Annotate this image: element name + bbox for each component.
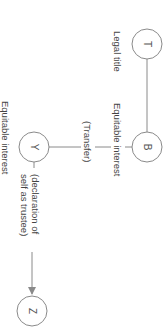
diagram-graphics: T B Y Z [0, 0, 168, 333]
node-t-label: T [142, 41, 153, 47]
equitable-interest-b-label: Equitable interest [112, 103, 123, 176]
node-t: T [132, 29, 162, 59]
equitable-interest-y-label: Equitable interest [0, 101, 11, 174]
node-y-label: Y [29, 144, 40, 151]
node-z-label: Z [27, 308, 38, 314]
node-z: Z [17, 296, 47, 326]
transfer-label: (Transfer) [82, 121, 93, 162]
legal-title-label: Legal title [112, 31, 123, 72]
declaration-label-line2: self as trustee) [19, 174, 30, 236]
node-b-label: B [142, 144, 153, 151]
declaration-label-line1: (declaration of [30, 174, 41, 234]
trust-diagram: T B Y Z Legal title Equitable interest (… [0, 0, 168, 333]
node-b: B [132, 132, 162, 162]
node-y: Y [19, 132, 49, 162]
